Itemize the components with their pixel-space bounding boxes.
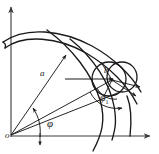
- radius-b-label: b: [104, 66, 109, 75]
- blade-left-cap: [3, 42, 6, 48]
- axes-group: [11, 7, 150, 137]
- ray-a: [11, 55, 66, 135]
- radius-a-label: a: [40, 69, 45, 78]
- angle-phi1-subscript: 1: [106, 99, 109, 105]
- diagram-canvas: [0, 0, 159, 154]
- point-b-marker: [110, 78, 113, 81]
- angle-phi1-label: φ1: [100, 93, 109, 105]
- polar-blade-diagram: o a b φ φ1: [0, 0, 159, 154]
- curve-tail-right: [127, 96, 131, 136]
- circle-right: [107, 62, 137, 92]
- descending-curve-2: [70, 39, 115, 140]
- angle-phi-tick-head: [38, 142, 41, 146]
- angle-phi-label: φ: [47, 118, 53, 129]
- origin-label: o: [5, 131, 10, 140]
